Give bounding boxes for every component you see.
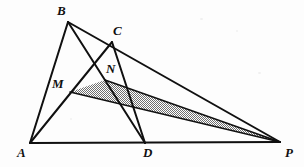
geometry-canvas — [0, 0, 304, 167]
scan-speck — [70, 118, 72, 120]
segment-N-P — [105, 80, 280, 142]
geometry-figure: ABCDMNP — [0, 0, 304, 167]
segment-A-P — [30, 142, 280, 143]
vertex-label-M: M — [52, 77, 64, 90]
segment-M-P — [70, 92, 280, 142]
vertex-label-B: B — [57, 4, 66, 17]
vertex-label-A: A — [17, 146, 26, 159]
vertex-label-C: C — [113, 24, 122, 37]
scan-speck — [200, 18, 203, 20]
vertex-label-P: P — [285, 146, 293, 159]
segments-layer — [30, 22, 280, 143]
vertex-label-D: D — [143, 146, 152, 159]
vertex-label-N: N — [106, 62, 115, 75]
scan-speck — [236, 30, 238, 32]
shaded-region-layer — [70, 80, 280, 142]
scan-speck — [258, 72, 261, 74]
shaded-triangle-MNP — [70, 80, 280, 142]
